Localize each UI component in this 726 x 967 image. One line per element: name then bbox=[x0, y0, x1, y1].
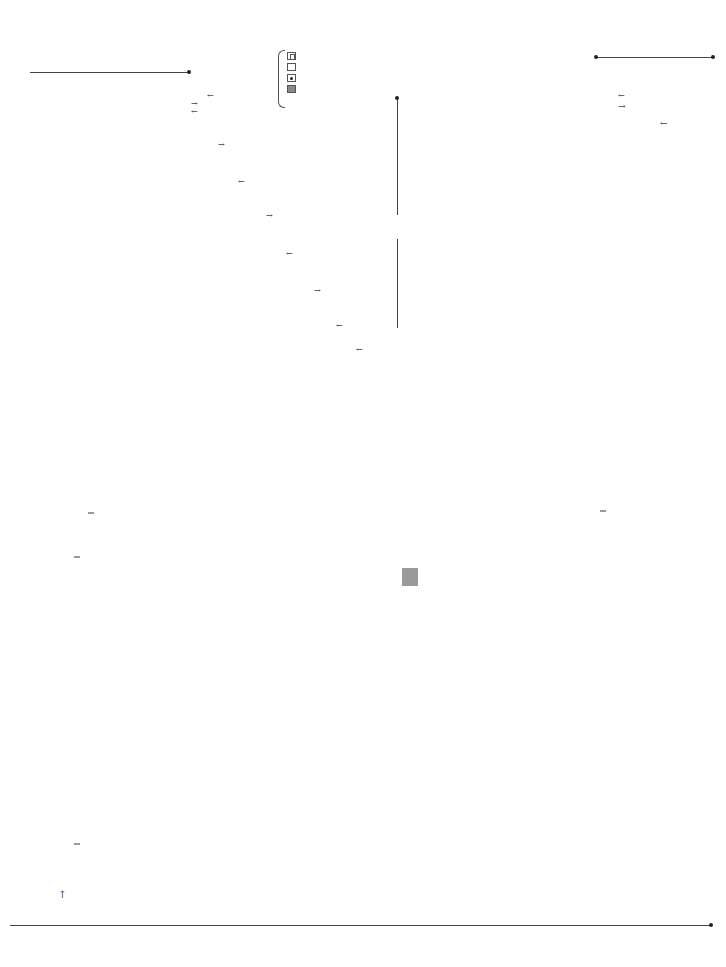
back-body-label bbox=[88, 512, 94, 514]
rib-stitch-label bbox=[74, 843, 80, 845]
dimension-endpoint bbox=[709, 923, 713, 927]
neck-depth-line bbox=[397, 98, 398, 328]
row-marker-5-right: ← bbox=[660, 119, 668, 128]
row-marker-15: ← bbox=[286, 250, 293, 258]
bottom-dimension-line bbox=[10, 925, 712, 926]
row-marker-5: ← bbox=[336, 322, 343, 330]
jacquard-pattern-label bbox=[74, 556, 80, 558]
bind-off-left-label: ← bbox=[207, 92, 214, 100]
row-marker-30: → bbox=[218, 141, 225, 149]
neck-depth-label bbox=[388, 215, 408, 239]
center-back-arrow-icon: ↑ bbox=[58, 890, 66, 900]
row-marker-20: → bbox=[266, 212, 273, 220]
row-marker-35: ← bbox=[191, 108, 198, 116]
body-length-label bbox=[402, 568, 418, 586]
knitting-chart bbox=[0, 0, 726, 967]
row-marker-8: → bbox=[618, 102, 626, 111]
row-marker-25: ← bbox=[238, 178, 245, 186]
right-front-label bbox=[600, 510, 606, 512]
row-marker-10: → bbox=[314, 287, 321, 295]
row-marker-1: ← bbox=[356, 346, 363, 354]
dimension-endpoint bbox=[395, 96, 399, 100]
bind-off-right-label: ← bbox=[618, 92, 625, 100]
